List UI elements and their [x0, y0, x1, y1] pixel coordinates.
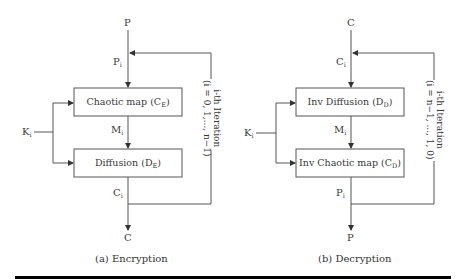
- enc-round-input-label: Pi: [113, 57, 122, 69]
- dec-round-input-sub: i: [344, 61, 346, 69]
- dec-middle-sub: i: [344, 129, 346, 137]
- enc-iteration-line2: (i = 0, 1,..., n−1): [201, 80, 211, 157]
- enc-key-sub: i: [29, 131, 31, 139]
- dec-input-label: C: [347, 18, 355, 28]
- diagram-lines: [0, 0, 466, 279]
- dec-round-output-base: P: [336, 187, 343, 198]
- dec-caption: (b) Decryption: [318, 253, 391, 264]
- dec-middle-label: Mi: [334, 125, 346, 137]
- enc-block1-name: Chaotic map: [86, 96, 147, 107]
- dec-iteration-line2: (i = n−1, ..., 1, 0): [424, 80, 434, 159]
- dec-iteration-line1: i-th Iteration: [435, 80, 445, 159]
- enc-output-label: C: [124, 233, 132, 243]
- enc-block2-sym: D: [145, 157, 153, 168]
- enc-caption: (a) Encryption: [95, 253, 168, 264]
- dec-output-label: P: [347, 233, 354, 243]
- dec-middle-base: M: [334, 124, 344, 135]
- enc-iteration-line1: i-th Iteration: [212, 80, 222, 157]
- enc-block1-chaotic-map: Chaotic map (CE): [74, 97, 182, 109]
- enc-round-input-sub: i: [120, 61, 122, 69]
- dec-block1-sub: D: [383, 101, 388, 109]
- enc-round-input-base: P: [113, 56, 120, 67]
- enc-iteration-label: i-th Iteration(i = 0, 1,..., n−1): [201, 80, 222, 157]
- enc-block2-diffusion: Diffusion (DE): [74, 158, 182, 170]
- enc-block2-name: Diffusion: [95, 157, 138, 168]
- dec-round-input-base: C: [336, 56, 344, 67]
- dec-round-output-sub: i: [343, 192, 345, 200]
- enc-round-output-base: C: [113, 187, 121, 198]
- dec-block2-sym: C: [385, 157, 392, 168]
- dec-round-input-label: Ci: [336, 57, 346, 69]
- dec-block1-inv-diffusion: Inv Diffusion (DD): [296, 97, 404, 109]
- enc-input-label: P: [124, 18, 131, 28]
- dec-round-output-label: Pi: [336, 188, 345, 200]
- dec-block2-name: Inv Chaotic map: [299, 157, 378, 168]
- enc-middle-sub: i: [121, 129, 123, 137]
- enc-key-label: Ki: [22, 127, 32, 139]
- enc-round-output-sub: i: [121, 192, 123, 200]
- dec-key-label: Ki: [244, 128, 254, 140]
- dec-block1-name: Inv Diffusion: [308, 96, 370, 107]
- enc-middle-label: Mi: [111, 125, 123, 137]
- dec-block2-sub: D: [392, 162, 397, 170]
- enc-round-output-label: Ci: [113, 188, 123, 200]
- dec-iteration-label: i-th Iteration(i = n−1, ..., 1, 0): [424, 80, 445, 159]
- enc-block2-sub: E: [153, 162, 158, 170]
- enc-block1-sub: E: [161, 101, 166, 109]
- enc-middle-base: M: [111, 124, 121, 135]
- dec-key-sub: i: [251, 132, 253, 140]
- dec-block2-inv-chaotic-map: Inv Chaotic map (CD): [296, 158, 404, 170]
